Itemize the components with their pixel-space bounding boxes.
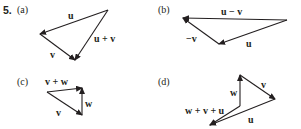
vector-label-d-u: u (248, 115, 254, 125)
vector-label-a-u-plus-v: u + v (94, 34, 115, 44)
vector-label-d-w: w (230, 88, 237, 98)
vector-diagram (0, 0, 301, 129)
vector-label-a-v: v (50, 50, 55, 60)
vector-arrow-a-u (40, 10, 108, 34)
vector-label-d-w-plus-v-plus-u: w + v + u (185, 106, 224, 116)
vector-label-b-u: u (246, 39, 252, 49)
panel-c-label: (c) (17, 77, 28, 87)
vector-label-a-u: u (68, 11, 74, 21)
panel-a-label: (a) (17, 5, 28, 15)
vector-arrow-b-u (219, 20, 287, 44)
vector-label-b-u-minus-v: u − v (221, 7, 242, 17)
vector-label-c-w: w (85, 99, 92, 109)
vector-label-d-v: v (261, 80, 266, 90)
panel-b-label: (b) (158, 5, 170, 15)
vector-arrow-d-v (240, 75, 275, 99)
vector-arrow-b-u-v (183, 18, 287, 20)
vector-label-c-v: v (56, 108, 61, 118)
vector-arrow-c-v+w (47, 88, 82, 92)
vector-arrow-a-v (40, 34, 75, 60)
problem-number: 5. (3, 5, 12, 16)
vector-arrow-c-v (47, 92, 82, 115)
vector-label-b-neg-v: −v (186, 34, 197, 44)
vector-label-c-v-plus-w: v + w (45, 77, 68, 87)
panel-d-label: (d) (158, 77, 170, 87)
